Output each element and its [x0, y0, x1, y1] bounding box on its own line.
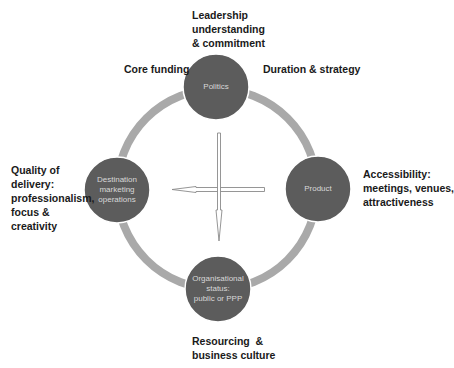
- node-politics-label: Politics: [183, 82, 249, 92]
- node-product-label: Product: [285, 184, 351, 194]
- node-organisational-label: Organisational status: public or PPP: [185, 274, 251, 304]
- label-resourcing: Resourcing & business culture: [192, 334, 275, 362]
- label-quality-line-1: Quality of: [11, 163, 94, 177]
- node-organisational-line-2: status:: [185, 284, 251, 294]
- label-core-funding-text: Core funding: [124, 62, 189, 76]
- arrow-down-icon: [216, 133, 222, 241]
- label-accessibility-line-2: meetings, venues,: [363, 181, 454, 195]
- label-duration-strategy: Duration & strategy: [263, 62, 360, 76]
- label-quality-of-delivery: Quality of delivery: professionalism, fo…: [11, 163, 94, 233]
- label-accessibility: Accessibility: meetings, venues, attract…: [363, 167, 454, 209]
- label-quality-line-3: professionalism,: [11, 191, 94, 205]
- label-duration-strategy-text: Duration & strategy: [263, 62, 360, 76]
- label-core-funding: Core funding: [124, 62, 189, 76]
- node-politics-text: Politics: [183, 82, 249, 92]
- label-quality-line-2: delivery:: [11, 177, 94, 191]
- node-organisational-line-3: public or PPP: [185, 294, 251, 304]
- node-product-text: Product: [285, 184, 351, 194]
- label-leadership-line-3: & commitment: [192, 36, 265, 50]
- label-resourcing-line-2: business culture: [192, 348, 275, 362]
- label-quality-line-4: focus &: [11, 205, 94, 219]
- label-leadership-line-1: Leadership: [192, 8, 265, 22]
- label-accessibility-line-1: Accessibility:: [363, 167, 454, 181]
- node-organisational-line-1: Organisational: [185, 274, 251, 284]
- label-quality-line-5: creativity: [11, 219, 94, 233]
- label-accessibility-line-3: attractiveness: [363, 195, 454, 209]
- label-leadership-line-2: understanding: [192, 22, 265, 36]
- label-resourcing-line-1: Resourcing &: [192, 334, 275, 348]
- label-leadership: Leadership understanding & commitment: [192, 8, 265, 50]
